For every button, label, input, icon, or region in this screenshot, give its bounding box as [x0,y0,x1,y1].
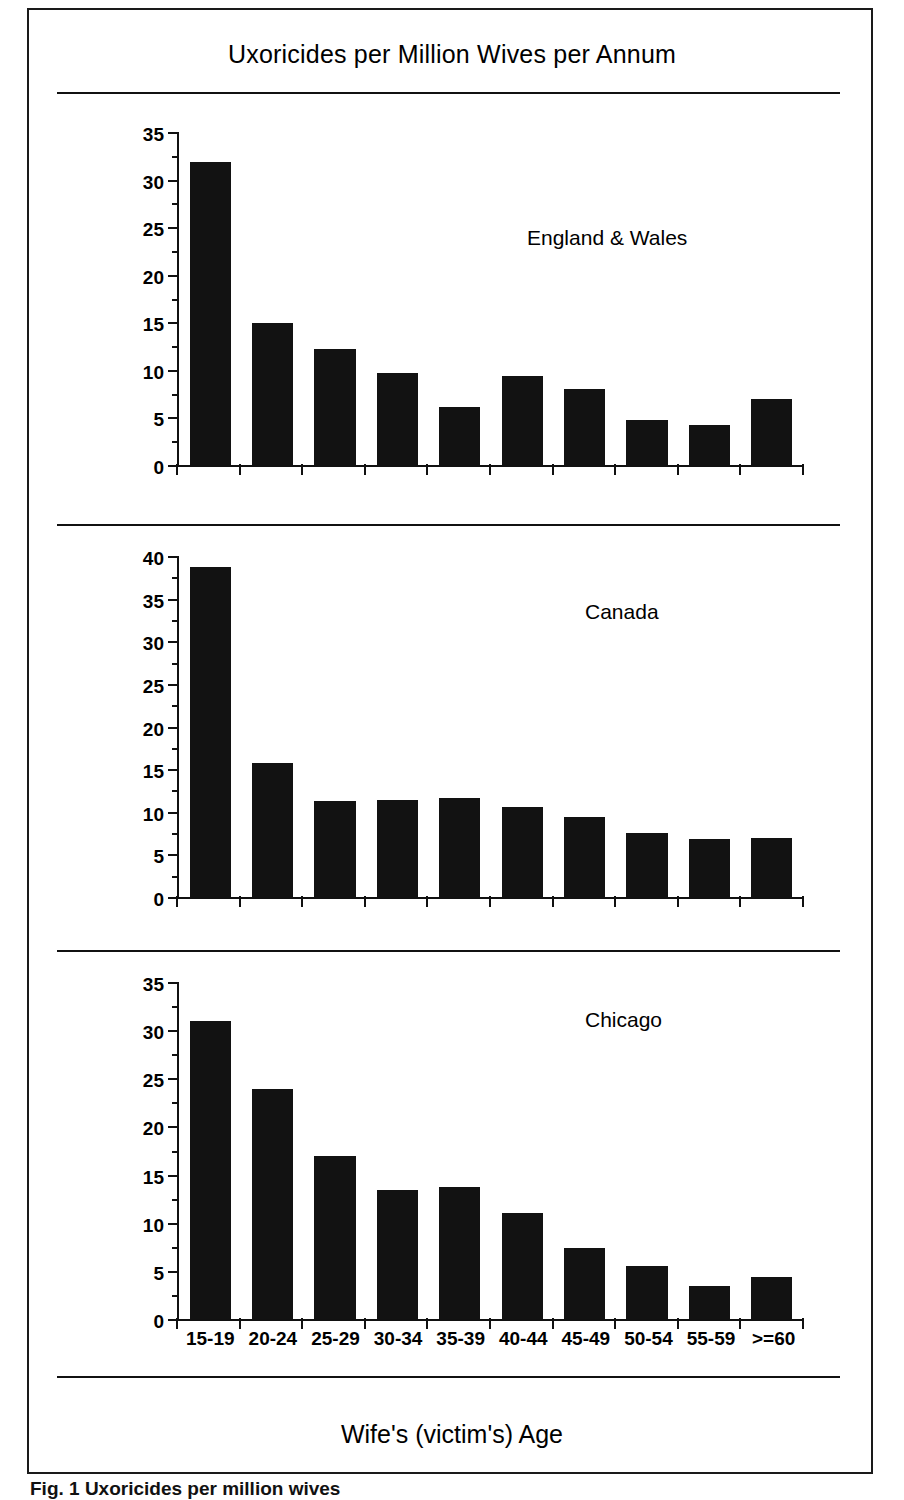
bar [751,1277,792,1319]
panel-england-wales: England & Wales 05101520253035 [29,100,875,520]
y-axis-tick-label: 35 [143,975,164,994]
y-axis-minor-tick [172,876,179,878]
y-axis-tick [168,727,179,729]
bar [439,798,480,897]
figure-frame: Uxoricides per Million Wives per Annum E… [27,8,873,1474]
bar-cell [678,558,740,897]
x-axis-tick-label: 50-54 [617,1328,680,1350]
x-axis-tick [176,1318,178,1329]
y-axis-minor-tick [172,299,179,301]
x-axis-tick [239,464,241,475]
bar-cell [741,984,803,1319]
bar [689,839,730,897]
y-axis-tick-label: 5 [153,1263,164,1282]
bar-cell [429,984,491,1319]
y-axis-minor-tick [172,1006,179,1008]
panel-chicago: Chicago 05101520253035 15-1920-2425-2930… [29,956,875,1374]
x-axis-tick [489,896,491,907]
x-axis-tick [802,464,804,475]
y-axis-tick [168,769,179,771]
y-axis-tick-label: 0 [153,1312,164,1331]
y-axis-tick [168,132,179,134]
bar [564,817,605,898]
y-axis-minor-tick [172,203,179,205]
y-axis-tick-label: 20 [143,267,164,286]
y-axis-tick-label: 30 [143,634,164,653]
bar [439,1187,480,1319]
y-axis-tick-label: 20 [143,1119,164,1138]
y-axis-tick [168,1223,179,1225]
x-axis-tick-label: 40-44 [492,1328,555,1350]
x-axis-tick-label: 15-19 [179,1328,242,1350]
y-axis-minor-tick [172,1054,179,1056]
bar-series-chicago [179,984,803,1319]
y-axis-tick [168,812,179,814]
y-axis-tick [168,1126,179,1128]
bar [252,763,293,897]
y-axis-minor-tick [172,251,179,253]
bar-cell [429,134,491,465]
bar [626,1266,667,1319]
y-axis-tick [168,641,179,643]
y-axis-minor-tick [172,577,179,579]
bar [190,1021,231,1319]
x-axis-tick [239,896,241,907]
x-axis-tick [426,896,428,907]
bar-cell [616,984,678,1319]
bar [626,420,667,465]
bar-cell [179,984,241,1319]
bar-cell [678,134,740,465]
x-axis-tick [739,464,741,475]
y-axis-minor-tick [172,705,179,707]
y-axis-tick [168,854,179,856]
bar-cell [741,134,803,465]
x-axis-tick [677,464,679,475]
bar-cell [304,134,366,465]
plot-area-canada: 0510152025303540 [177,558,803,899]
y-axis-tick-label: 25 [143,1071,164,1090]
bar-cell [616,558,678,897]
divider-rule-top [57,92,840,94]
x-axis-caption: Wife's (victim's) Age [29,1420,875,1449]
bar-series-canada [179,558,803,897]
bar-cell [179,134,241,465]
y-axis-tick [168,982,179,984]
bar [564,389,605,465]
bar [439,407,480,465]
x-axis-tick-label: >=60 [742,1328,805,1350]
x-axis-tick [364,896,366,907]
y-axis-minor-tick [172,748,179,750]
bar-cell [366,134,428,465]
bar-cell [429,558,491,897]
y-axis-tick-label: 0 [153,458,164,477]
x-axis-tick [364,464,366,475]
plot-area-chicago: 05101520253035 [177,984,803,1321]
bar [314,1156,355,1319]
x-axis-tick [489,464,491,475]
plot-area-england-wales: 05101520253035 [177,134,803,467]
x-axis-tick [301,464,303,475]
y-axis-minor-tick [172,1295,179,1297]
y-axis-tick-label: 10 [143,804,164,823]
bar [751,399,792,465]
bar-cell [366,984,428,1319]
x-axis-tick [552,896,554,907]
y-axis-tick [168,684,179,686]
y-axis-tick-label: 15 [143,1167,164,1186]
bar-series-england-wales [179,134,803,465]
y-axis-tick-label: 20 [143,719,164,738]
bar [190,162,231,465]
y-axis-tick-label: 15 [143,762,164,781]
y-axis-tick [168,556,179,558]
bar [751,838,792,897]
bar-cell [491,984,553,1319]
chart-title: Uxoricides per Million Wives per Annum [29,40,875,69]
x-axis-tick [802,896,804,907]
y-axis-minor-tick [172,663,179,665]
y-axis-minor-tick [172,790,179,792]
y-axis-minor-tick [172,346,179,348]
bar-cell [304,984,366,1319]
x-axis-tick [739,896,741,907]
y-axis-tick-label: 5 [153,410,164,429]
y-axis-minor-tick [172,833,179,835]
